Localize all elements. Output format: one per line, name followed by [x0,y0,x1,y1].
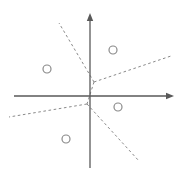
diagram-figure [0,0,183,174]
figure-background [0,0,183,174]
diagram-canvas [0,0,183,174]
